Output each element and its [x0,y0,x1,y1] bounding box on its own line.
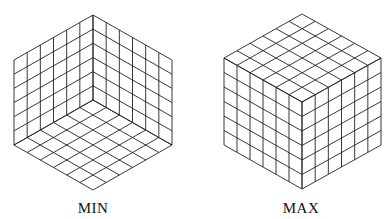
min-cube-interior-grid [14,15,172,190]
min-label: MIN [78,200,109,217]
max-cube-exterior-grid [224,14,381,189]
cube-diagram [0,0,391,219]
max-label: MAX [283,200,320,217]
